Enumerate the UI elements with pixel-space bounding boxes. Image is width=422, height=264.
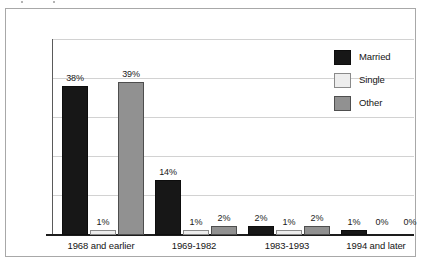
- bar-group-1969-1982: 14% 1% 2%: [151, 39, 237, 235]
- top-edge-speck: [21, 1, 23, 3]
- chart-screenshot: 0% 10% 20% 30% 40% 50% 38% 1% 39% 1: [0, 0, 422, 264]
- legend-swatch-married-icon: [334, 50, 351, 65]
- bar-other-1983-1993[interactable]: [304, 226, 330, 235]
- bar-married-1983-1993[interactable]: [248, 226, 274, 235]
- legend-swatch-other-icon: [334, 96, 351, 111]
- bar-label-other-1968-and-earlier: 39%: [112, 70, 150, 79]
- bar-label-other-1983-1993: 2%: [298, 214, 336, 223]
- chart-frame: 0% 10% 20% 30% 40% 50% 38% 1% 39% 1: [5, 8, 416, 257]
- bar-label-other-1969-1982: 2%: [205, 214, 243, 223]
- category-label-1968-and-earlier: 1968 and earlier: [58, 241, 144, 251]
- bar-label-single-1968-and-earlier: 1%: [84, 218, 122, 227]
- bar-label-married-1968-and-earlier: 38%: [56, 74, 94, 83]
- legend-label-other: Other: [359, 97, 382, 108]
- bar-single-1983-1993[interactable]: [276, 230, 302, 235]
- legend-label-single: Single: [359, 74, 385, 85]
- bar-label-married-1969-1982: 14%: [149, 168, 187, 177]
- bar-single-1968-and-earlier[interactable]: [90, 230, 116, 235]
- bar-group-1968-and-earlier: 38% 1% 39%: [58, 39, 144, 235]
- category-label-1983-1993: 1983-1993: [244, 241, 330, 251]
- legend-swatch-single-icon: [334, 73, 351, 88]
- bar-group-1983-1993: 2% 1% 2%: [244, 39, 330, 235]
- top-edge-speck: [53, 1, 55, 3]
- bar-group-1994-and-later: 1% 0% 0%: [337, 39, 422, 235]
- category-label-1994-and-later: 1994 and later: [333, 241, 419, 251]
- category-label-1969-1982: 1969-1982: [151, 241, 237, 251]
- bar-label-other-1994-and-later: 0%: [391, 218, 422, 227]
- bar-married-1968-and-earlier[interactable]: [62, 86, 88, 235]
- legend-label-married: Married: [359, 51, 391, 62]
- bar-other-1969-1982[interactable]: [211, 226, 237, 235]
- y-axis-line: [52, 39, 53, 235]
- bar-single-1969-1982[interactable]: [183, 230, 209, 235]
- plot-area: 38% 1% 39% 1968 and earlier 14% 1% 2% 19…: [52, 39, 414, 235]
- bar-married-1994-and-later[interactable]: [341, 230, 367, 235]
- bar-other-1968-and-earlier[interactable]: [118, 82, 144, 235]
